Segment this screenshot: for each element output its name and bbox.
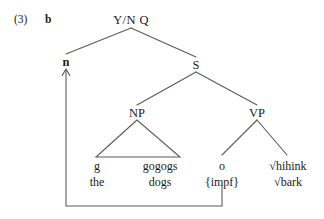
leaf-gloss-1: dogs — [149, 176, 172, 188]
branch-root-to-trace — [66, 28, 131, 54]
leaf-gloss-0: the — [90, 176, 105, 188]
node-trace-n: n — [63, 56, 70, 69]
branch-vp-to-root-hihink — [257, 120, 287, 155]
branch-root-to-s — [131, 28, 196, 57]
branch-s-to-np — [137, 72, 196, 105]
leaf-gloss-2: {impf} — [205, 176, 239, 188]
figure-canvas: (3) b Y/N Q n S NP VP g the gogogs dogs … — [0, 0, 324, 219]
branch-vp-to-o — [222, 120, 257, 155]
example-letter: b — [45, 14, 51, 26]
example-number: (3) — [14, 14, 27, 26]
node-s: S — [193, 59, 200, 72]
node-vp: VP — [249, 107, 265, 120]
leaf-form-1: gogogs — [143, 160, 178, 172]
node-np: NP — [129, 107, 145, 120]
node-root: Y/N Q — [113, 14, 149, 27]
leaf-gloss-3: √bark — [274, 176, 302, 188]
leaf-form-3: √hihink — [269, 160, 306, 172]
leaf-form-0: g — [94, 160, 100, 172]
np-triangle — [96, 120, 180, 157]
branch-s-to-vp — [196, 72, 257, 105]
leaf-form-2: o — [219, 160, 225, 172]
